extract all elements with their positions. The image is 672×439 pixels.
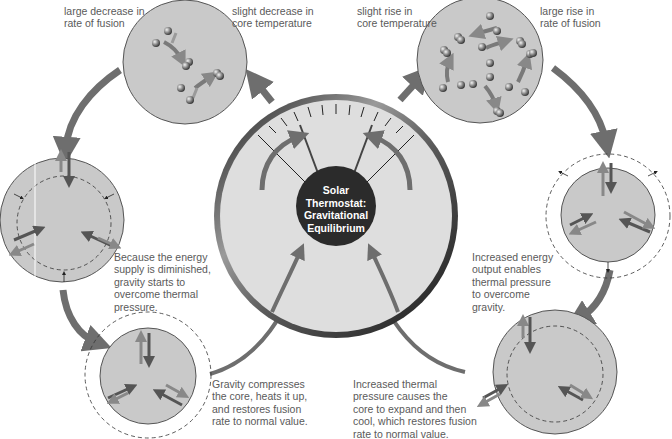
caption-gravity-overcomes: Because the energy supply is diminished,…: [114, 251, 211, 313]
caption-slight-rise-temperature: slight rise in core temperature: [357, 5, 437, 30]
caption-slight-decrease-temperature: slight decrease in core temperature: [232, 5, 314, 30]
caption-thermal-pressure-expands: Increased thermal pressure causes the co…: [353, 378, 477, 439]
caption-gravity-compresses: Gravity compresses the core, heats it up…: [212, 378, 308, 428]
caption-large-rise-fusion: large rise in rate of fusion: [540, 5, 601, 30]
node-core-expanding: [546, 154, 670, 278]
caption-large-decrease-fusion: large decrease in rate of fusion: [64, 5, 145, 30]
arrow-gauge-to-fusion-decrease: [256, 82, 272, 102]
center-title: Solar Thermostat: Gravitational Equilibr…: [296, 184, 376, 234]
arrow-left-mid-to-bottom-left: [63, 290, 96, 342]
node-core-compressed: [85, 312, 211, 438]
arrow-fusion-increase-to-right-mid: [553, 68, 606, 142]
arrow-fusion-decrease-to-left-mid: [66, 70, 120, 148]
caption-pressure-overcomes: Increased energy output enables thermal …: [472, 251, 553, 313]
arrow-right-mid-to-bottom-right: [580, 270, 610, 318]
node-core-expanded: [482, 310, 617, 434]
arrow-gauge-to-fusion-increase: [400, 78, 420, 100]
node-core-contracting: [0, 152, 124, 282]
